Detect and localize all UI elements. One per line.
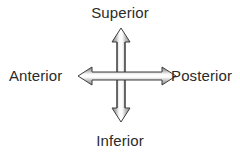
horizontal-double-arrow <box>78 67 176 85</box>
label-inferior: Inferior <box>0 133 240 148</box>
anatomical-direction-diagram: Superior Anterior Posterior Inferior <box>0 0 240 154</box>
label-posterior: Posterior <box>171 68 232 83</box>
label-anterior: Anterior <box>9 68 62 83</box>
label-superior: Superior <box>0 5 240 20</box>
